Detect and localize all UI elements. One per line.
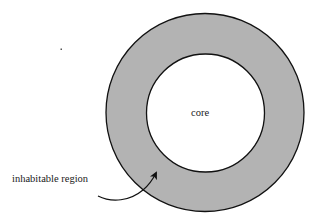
core-label: core [191, 108, 209, 119]
concentric-circles-diagram [0, 0, 314, 224]
stray-dot [61, 49, 63, 51]
inhabitable-region-label: inhabitable region [12, 174, 88, 185]
